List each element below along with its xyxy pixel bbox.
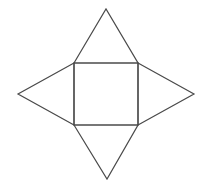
triangle-right — [138, 63, 194, 125]
triangle-bottom — [74, 125, 138, 179]
square-base — [74, 63, 138, 125]
pyramid-net-diagram — [0, 0, 207, 187]
triangle-left — [18, 63, 74, 125]
triangle-top — [74, 9, 138, 63]
